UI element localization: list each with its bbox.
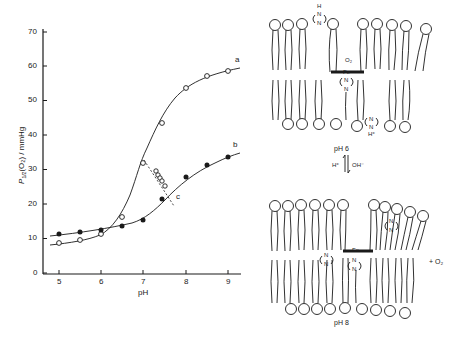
y-axis-label-sub: 1/2 bbox=[21, 172, 27, 179]
curve-a bbox=[50, 68, 240, 245]
top-imidazole-h: H bbox=[317, 3, 321, 9]
ph8-heme-n2: N bbox=[352, 266, 356, 272]
y-tick-label-40: 40 bbox=[28, 131, 37, 139]
ph8-imidazole-b-n2: N bbox=[389, 227, 393, 233]
top-heme-n1: N bbox=[344, 77, 348, 83]
x-tick-label-8: 8 bbox=[184, 278, 188, 286]
y-tick-label-10: 10 bbox=[28, 234, 37, 242]
y-tick-label-60: 60 bbox=[28, 62, 37, 70]
y-tick-label-0: 0 bbox=[33, 269, 37, 277]
series-label-c: c bbox=[176, 193, 180, 201]
chart bbox=[43, 29, 241, 274]
y-axis-label-main: P bbox=[17, 179, 26, 184]
equilibrium-arrows bbox=[343, 155, 350, 173]
bilayer-top bbox=[270, 15, 432, 133]
bottom-imidazole-n2: N bbox=[369, 124, 373, 130]
series-label-a: a bbox=[235, 56, 239, 64]
x-axis-label: pH bbox=[138, 289, 148, 297]
ph8-imidazole-b-n1: N bbox=[389, 218, 393, 224]
ph8-imidazole-a-n1: N bbox=[324, 252, 328, 258]
y-axis-label-rest: (O₂) / mmHg bbox=[17, 127, 26, 172]
top-imidazole-n1: N bbox=[317, 11, 321, 17]
x-tick-label-7: 7 bbox=[141, 278, 145, 286]
bottom-imidazole-hplus: H⁺ bbox=[368, 131, 375, 137]
x-tick-label-5: 5 bbox=[57, 278, 61, 286]
released-o2: + O₂ bbox=[429, 258, 443, 265]
y-tick-label-70: 70 bbox=[28, 28, 37, 36]
curve-c bbox=[144, 160, 174, 206]
bottom-imidazole-n1: N bbox=[369, 116, 373, 122]
bilayer-bottom bbox=[270, 200, 429, 319]
top-fe: Fe bbox=[343, 69, 350, 75]
y-tick-label-30: 30 bbox=[28, 165, 37, 173]
curve-b bbox=[50, 153, 240, 236]
label-ph6: pH 6 bbox=[334, 145, 349, 152]
y-tick-label-50: 50 bbox=[28, 96, 37, 104]
eq-right-label: OH⁻ bbox=[352, 162, 364, 168]
top-imidazole-n2: N bbox=[317, 20, 321, 26]
eq-left-label: H⁺ bbox=[332, 162, 339, 168]
y-axis-label: P1/2(O₂) / mmHg bbox=[17, 105, 28, 205]
series-b-markers bbox=[57, 155, 231, 237]
y-tick-label-20: 20 bbox=[28, 200, 37, 208]
ph8-fe: Fe bbox=[352, 247, 359, 253]
ph8-imidazole-a-n2: N bbox=[324, 261, 328, 267]
top-o2: O₂ bbox=[345, 57, 352, 63]
label-ph8: pH 8 bbox=[334, 319, 349, 326]
series-label-b: b bbox=[233, 141, 237, 149]
ph8-heme-n1: N bbox=[352, 257, 356, 263]
x-tick-label-6: 6 bbox=[99, 278, 103, 286]
figure bbox=[0, 0, 466, 338]
top-heme-n2: N bbox=[344, 86, 348, 92]
x-tick-label-9: 9 bbox=[226, 278, 230, 286]
